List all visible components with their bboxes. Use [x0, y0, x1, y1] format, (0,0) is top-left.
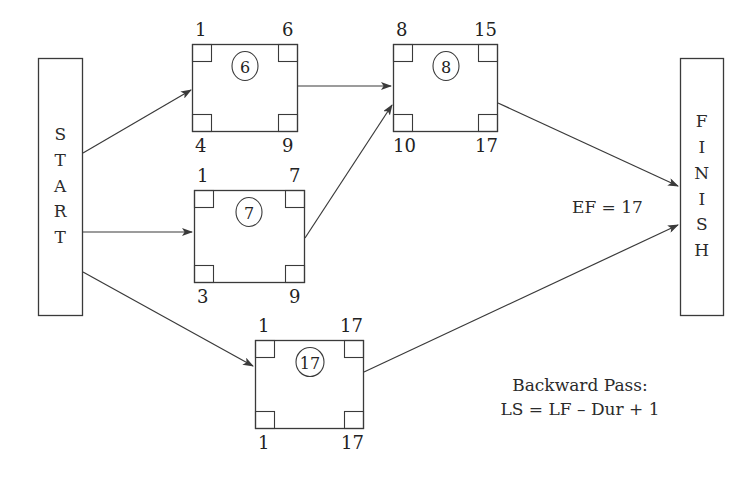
node-c-late-start-value: 3 [197, 288, 208, 306]
node-b-duration-value: 8 [426, 60, 466, 76]
node-c-early-start-value: 1 [197, 167, 208, 185]
node-d-late-start-value: 1 [258, 434, 269, 452]
node-b-early-start-value: 8 [396, 21, 407, 39]
edge-start-to-node-d [83, 272, 253, 366]
node-c-duration-value: 7 [229, 206, 269, 222]
start-node-box [39, 59, 83, 316]
ef-annotation: EF = 17 [572, 195, 643, 219]
finish-node-box [681, 59, 724, 316]
node-d-late-finish-value: 17 [341, 434, 364, 452]
edge-node-d-to-finish [364, 225, 678, 372]
node-d-early-start-value: 1 [258, 317, 269, 335]
node-c-early-finish-value: 7 [289, 167, 300, 185]
node-a-duration-value: 6 [225, 60, 265, 76]
node-d-duration-value: 17 [290, 356, 330, 372]
node-a-late-finish-value: 9 [282, 137, 293, 155]
network-diagram: S T A R T F I N I S H 1 6 4 9 6 8 15 10 … [0, 0, 753, 486]
node-b-late-finish-value: 17 [475, 137, 498, 155]
backward-pass-title: Backward Pass: [480, 373, 680, 397]
node-b-late-start-value: 10 [393, 137, 416, 155]
edge-node-b-to-finish [498, 103, 678, 186]
edge-start-to-node-a [83, 90, 191, 153]
node-a-late-start-value: 4 [195, 137, 206, 155]
node-a-early-finish-value: 6 [282, 21, 293, 39]
backward-pass-annotation: Backward Pass: LS = LF – Dur + 1 [480, 373, 680, 421]
backward-pass-formula: LS = LF – Dur + 1 [480, 397, 680, 421]
edge-node-c-to-node-b [305, 105, 392, 238]
node-a-early-start-value: 1 [195, 21, 206, 39]
node-d-early-finish-value: 17 [340, 317, 363, 335]
node-c-late-finish-value: 9 [289, 288, 300, 306]
node-b-early-finish-value: 15 [474, 21, 497, 39]
